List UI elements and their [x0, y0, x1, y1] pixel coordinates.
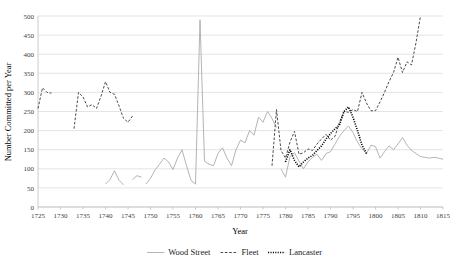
- x-tick-label: 1730: [54, 212, 69, 220]
- x-axis-title: Year: [232, 226, 248, 236]
- x-tick-label: 1780: [279, 212, 294, 220]
- gridlines: [38, 16, 443, 207]
- x-tick-label: 1775: [256, 212, 271, 220]
- y-tick-label: 150: [24, 146, 35, 154]
- series-line-wood-street: [133, 176, 142, 180]
- series-line-fleet: [74, 82, 133, 129]
- y-tick-label: 450: [24, 32, 35, 40]
- series-fleet: [38, 16, 421, 166]
- series-line-wood-street: [106, 171, 124, 185]
- y-axis-tick-labels: 050100150200250300350400450500: [24, 13, 35, 212]
- y-tick-label: 50: [27, 185, 35, 193]
- x-tick-label: 1815: [436, 212, 451, 220]
- legend-label-lancaster[interactable]: Lancaster: [289, 247, 322, 257]
- series-line-wood-street: [146, 20, 277, 184]
- y-tick-label: 100: [24, 165, 35, 173]
- y-tick-label: 300: [24, 89, 35, 97]
- y-tick-label: 200: [24, 127, 35, 135]
- chart-container: 050100150200250300350400450500 172517301…: [0, 0, 452, 270]
- line-chart: 050100150200250300350400450500 172517301…: [0, 0, 452, 270]
- x-tick-label: 1805: [391, 212, 406, 220]
- series-wood-street: [106, 20, 444, 185]
- y-tick-label: 500: [24, 13, 35, 21]
- x-tick-label: 1770: [234, 212, 249, 220]
- data-series: [38, 16, 443, 185]
- legend-label-wood-street[interactable]: Wood Street: [168, 247, 211, 257]
- y-tick-label: 350: [24, 70, 35, 78]
- x-tick-label: 1795: [346, 212, 361, 220]
- x-tick-label: 1755: [166, 212, 181, 220]
- y-tick-label: 250: [24, 108, 35, 116]
- legend-label-fleet[interactable]: Fleet: [242, 247, 260, 257]
- x-tick-label: 1785: [301, 212, 316, 220]
- x-tick-label: 1760: [189, 212, 204, 220]
- series-line-fleet: [38, 88, 52, 109]
- x-tick-label: 1750: [144, 212, 159, 220]
- y-tick-label: 0: [31, 204, 35, 212]
- x-axis-tick-labels: 1725173017351740174517501755176017651770…: [31, 207, 451, 220]
- x-tick-label: 1800: [369, 212, 384, 220]
- x-tick-label: 1740: [99, 212, 114, 220]
- y-tick-label: 400: [24, 51, 35, 59]
- x-tick-label: 1790: [324, 212, 339, 220]
- x-tick-label: 1745: [121, 212, 136, 220]
- x-tick-label: 1810: [414, 212, 429, 220]
- y-axis-title: Number Committed per Year: [3, 62, 13, 161]
- x-tick-label: 1725: [31, 212, 46, 220]
- x-tick-label: 1735: [76, 212, 91, 220]
- chart-legend: Wood StreetFleetLancaster: [147, 247, 322, 257]
- x-tick-label: 1765: [211, 212, 226, 220]
